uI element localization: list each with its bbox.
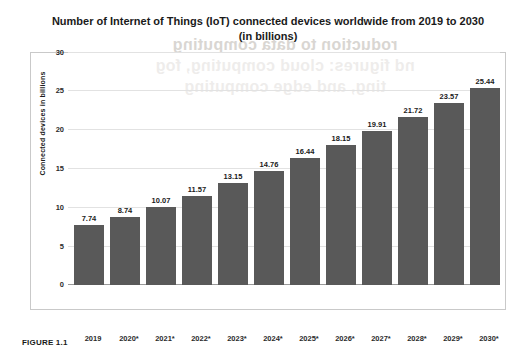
chart-title: Number of Internet of Things (IoT) conne…	[50, 14, 486, 44]
y-tick-0: 0	[42, 280, 64, 289]
y-tick-20: 20	[42, 125, 64, 134]
x-axis-ticks: 2019 2020* 2021* 2022* 2023* 2024* 2025*…	[69, 53, 500, 313]
y-tick-15: 15	[42, 164, 64, 173]
chart-figure: Number of Internet of Things (IoT) conne…	[28, 8, 508, 324]
y-tick-30: 30	[42, 48, 64, 57]
y-tick-10: 10	[42, 203, 64, 212]
figure-caption: FIGURE 1.1	[22, 338, 68, 347]
y-tick-5: 5	[42, 242, 64, 251]
x-tick-2030: 2030*	[467, 334, 511, 343]
y-tick-25: 25	[42, 86, 64, 95]
